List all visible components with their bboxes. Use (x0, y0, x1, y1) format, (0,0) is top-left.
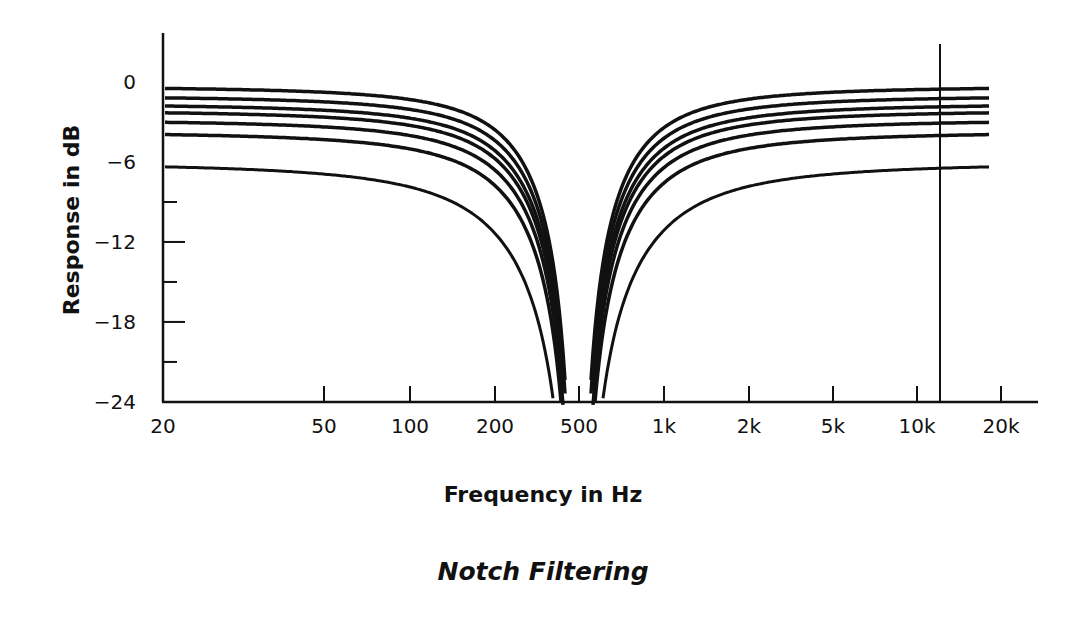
response-curve (165, 106, 989, 379)
y-tick-label: −18 (94, 310, 136, 334)
x-tick-label: 2k (737, 414, 762, 438)
response-curve (165, 113, 989, 390)
x-tick-label: 10k (898, 414, 935, 438)
y-tick-label: −24 (94, 390, 136, 414)
x-axis-title: Frequency in Hz (444, 482, 643, 507)
response-curve (165, 88, 989, 380)
x-tick-label: 50 (311, 414, 336, 438)
x-tick-label: 20k (982, 414, 1019, 438)
x-tick-label: 100 (391, 414, 429, 438)
x-axis-ticks: 20501002005001k2k5k10k20k (150, 386, 1020, 438)
response-curve (165, 98, 989, 394)
response-curve (165, 167, 989, 398)
y-axis-title: Response in dB (59, 125, 84, 316)
y-tick-label: 0 (123, 70, 136, 94)
x-tick-label: 200 (476, 414, 514, 438)
x-tick-label: 1k (652, 414, 677, 438)
response-curve (165, 122, 989, 405)
y-tick-label: −12 (94, 230, 136, 254)
response-curves (165, 88, 989, 404)
x-tick-label: 500 (560, 414, 598, 438)
chart-title: Notch Filtering (437, 557, 648, 586)
response-curve (165, 135, 989, 402)
y-tick-label: −6 (107, 150, 136, 174)
x-tick-label: 20 (150, 414, 175, 438)
notch-filter-chart: 0−6−12−18−24 20501002005001k2k5k10k20k R… (0, 0, 1084, 630)
x-tick-label: 5k (821, 414, 846, 438)
